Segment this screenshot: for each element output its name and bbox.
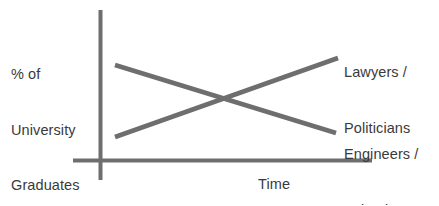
series-label-lawyers-line-1: Lawyers / [344, 63, 410, 82]
x-axis-label: Time [258, 175, 290, 194]
series-label-engineers-line-1: Engineers / [344, 145, 418, 164]
y-axis-label-line-2: University [11, 121, 80, 140]
series-line-engineers [115, 65, 336, 133]
y-axis-label-line-1: % of [11, 65, 80, 84]
y-axis-label: % of University Graduates [11, 28, 80, 205]
y-axis-label-line-3: Graduates [11, 176, 80, 195]
series-label-engineers-line-2: Scientists [344, 201, 418, 206]
series-label-engineers-scientists: Engineers / Scientists [344, 108, 418, 205]
chart-figure: % of University Graduates Lawyers / Poli… [0, 0, 439, 205]
